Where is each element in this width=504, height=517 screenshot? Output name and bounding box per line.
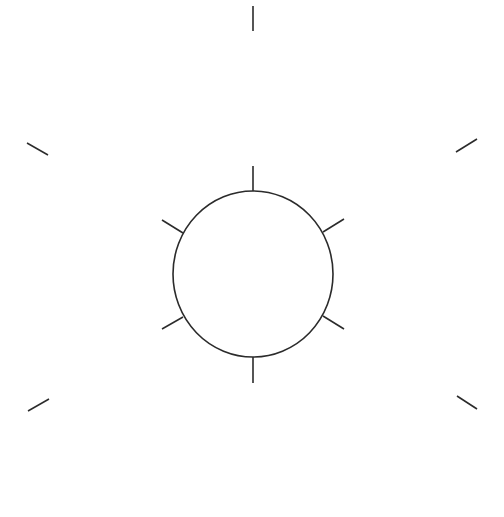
outer-tick-lower-right [457, 396, 477, 409]
outer-tick-upper-left [27, 143, 48, 155]
inner-tick-lower-left [162, 317, 183, 329]
inner-tick-upper-left [162, 220, 183, 233]
diagram-canvas: Circle with six short radial tick marks,… [0, 0, 504, 517]
central-circle [173, 191, 333, 357]
outer-tick-lower-left [28, 399, 49, 411]
inner-tick-lower-right [323, 316, 344, 329]
outer-tick-upper-right [456, 139, 477, 152]
inner-tick-group [162, 166, 344, 383]
inner-tick-upper-right [323, 219, 344, 232]
radial-circle-diagram [0, 0, 504, 517]
outer-tick-group [27, 6, 477, 411]
